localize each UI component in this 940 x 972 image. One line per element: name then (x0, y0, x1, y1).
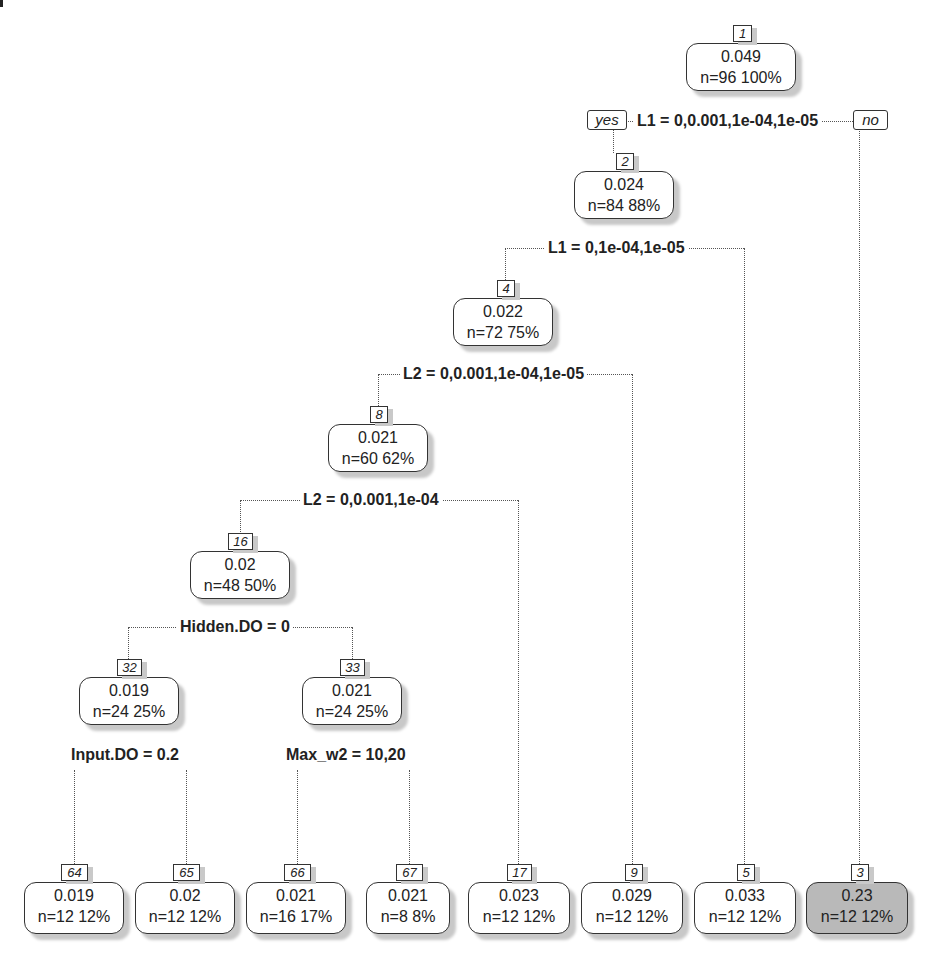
node-value: 0.021 (367, 885, 449, 906)
node-stats: n=12 12% (807, 906, 907, 927)
node-stats: n=12 12% (695, 906, 795, 927)
node-stats: n=24 25% (303, 701, 401, 722)
node-value: 0.049 (687, 46, 795, 67)
split-rule-node-33: Max_w2 = 10,20 (283, 746, 409, 764)
node-value: 0.021 (329, 427, 427, 448)
node-id-label: 1 (733, 25, 752, 42)
node-box: 0.019 n=12 12% (24, 882, 124, 934)
node-value: 0.024 (575, 174, 673, 195)
node-stats: n=12 12% (469, 906, 569, 927)
node-box: 0.023 n=12 12% (468, 882, 570, 934)
connector (378, 374, 379, 406)
node-stats: n=12 12% (582, 906, 682, 927)
connector (297, 770, 298, 864)
node-value: 0.02 (191, 554, 289, 575)
node-id-label: 8 (370, 406, 388, 423)
connector (186, 770, 187, 864)
node-value: 0.021 (247, 885, 345, 906)
node-id-label: 17 (507, 864, 532, 881)
node-box: 0.021 n=24 25% (302, 677, 402, 725)
node-box: 0.021 n=16 17% (246, 882, 346, 934)
connector (128, 627, 129, 659)
node-value: 0.029 (582, 885, 682, 906)
node-box: 0.024 n=84 88% (574, 171, 674, 219)
node-box-highlighted: 0.23 n=12 12% (806, 882, 908, 934)
corner-mark (0, 0, 3, 7)
connector (352, 627, 353, 659)
node-stats: n=8 8% (367, 906, 449, 927)
split-rule-node-4: L2 = 0,0.001,1e-04,1e-05 (400, 365, 587, 383)
node-stats: n=72 75% (454, 322, 552, 343)
split-rule-node-32: Input.DO = 0.2 (68, 746, 182, 764)
node-id-label: 5 (737, 864, 755, 881)
node-box: 0.029 n=12 12% (581, 882, 683, 934)
connector (505, 248, 506, 280)
connector (518, 500, 519, 864)
node-value: 0.021 (303, 680, 401, 701)
node-value: 0.019 (80, 680, 178, 701)
node-stats: n=12 12% (136, 906, 234, 927)
node-id-label: 9 (625, 864, 643, 881)
node-id-label: 16 (228, 533, 253, 550)
node-id-label: 32 (117, 659, 142, 676)
connector (744, 248, 745, 864)
node-value: 0.033 (695, 885, 795, 906)
node-id-label: 64 (61, 864, 88, 881)
node-stats: n=12 12% (25, 906, 123, 927)
node-box: 0.021 n=60 62% (328, 424, 428, 472)
node-id-label: 2 (616, 153, 634, 170)
node-value: 0.019 (25, 885, 123, 906)
node-box: 0.021 n=8 8% (366, 882, 450, 934)
connector (409, 770, 410, 864)
node-stats: n=96 100% (687, 67, 795, 88)
node-id-label: 65 (173, 864, 200, 881)
node-stats: n=24 25% (80, 701, 178, 722)
node-value: 0.022 (454, 301, 552, 322)
node-value: 0.023 (469, 885, 569, 906)
connector (632, 374, 633, 864)
split-rule-node-16: Hidden.DO = 0 (177, 618, 293, 636)
node-box: 0.02 n=48 50% (190, 551, 290, 599)
split-rule-node-2: L1 = 0,1e-04,1e-05 (545, 239, 688, 257)
split-rule-node-8: L2 = 0,0.001,1e-04 (300, 491, 442, 509)
split-rule-node-1: L1 = 0,0.001,1e-04,1e-05 (634, 112, 821, 130)
node-stats: n=16 17% (247, 906, 345, 927)
connector (859, 121, 860, 864)
node-stats: n=60 62% (329, 448, 427, 469)
no-branch-label: no (853, 110, 888, 130)
yes-branch-label: yes (587, 110, 627, 130)
regression-tree-diagram: 1 0.049 n=96 100% yes L1 = 0,0.001,1e-04… (0, 0, 940, 972)
node-id-label: 4 (497, 280, 515, 297)
node-box: 0.022 n=72 75% (453, 298, 553, 346)
connector (240, 500, 241, 532)
node-value: 0.02 (136, 885, 234, 906)
node-id-label: 66 (284, 864, 311, 881)
node-id-label: 33 (340, 659, 365, 676)
node-box: 0.033 n=12 12% (694, 882, 796, 934)
node-stats: n=48 50% (191, 575, 289, 596)
node-box: 0.019 n=24 25% (79, 677, 179, 725)
node-value: 0.23 (807, 885, 907, 906)
node-id-label: 67 (396, 864, 423, 881)
node-box: 0.02 n=12 12% (135, 882, 235, 934)
connector (74, 770, 75, 864)
node-stats: n=84 88% (575, 195, 673, 216)
node-box: 0.049 n=96 100% (686, 43, 796, 91)
node-id-label: 3 (851, 864, 869, 881)
